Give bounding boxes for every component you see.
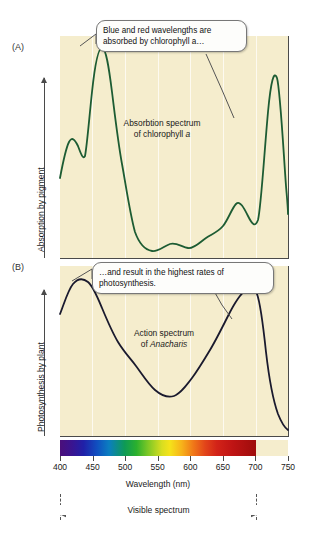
x-tick-label-600: 600: [183, 462, 197, 472]
x-tick-label-450: 450: [85, 462, 99, 472]
x-tick-450: [93, 456, 94, 461]
x-tick-label-500: 500: [118, 462, 132, 472]
x-tick-label-400: 400: [53, 462, 67, 472]
panel-b-x-axis: [60, 436, 289, 437]
x-tick-600: [190, 456, 191, 461]
x-tick-label-550: 550: [151, 462, 165, 472]
x-tick-750: [288, 456, 289, 461]
x-tick-label-700: 700: [248, 462, 262, 472]
x-tick-label-650: 650: [216, 462, 230, 472]
x-tick-500: [125, 456, 126, 461]
spectrum-bar-tail: [256, 440, 288, 456]
x-tick-650: [223, 456, 224, 461]
x-axis-label: Wavelength (nm): [0, 479, 316, 489]
x-tick-550: [158, 456, 159, 461]
x-tick-400: [60, 456, 61, 461]
x-tick-label-750: 750: [281, 462, 295, 472]
callout-absorption: Blue and red wavelengths are absorbed by…: [96, 20, 247, 52]
callout-photosynthesis: …and result in the highest rates of phot…: [92, 262, 274, 294]
visible-spectrum-bar: [60, 440, 256, 456]
figure-container: (A) Absorption by pigment Absorbtion spe…: [0, 0, 316, 536]
x-tick-700: [255, 456, 256, 461]
visible-spectrum-label: Visible spectrum: [60, 505, 257, 515]
